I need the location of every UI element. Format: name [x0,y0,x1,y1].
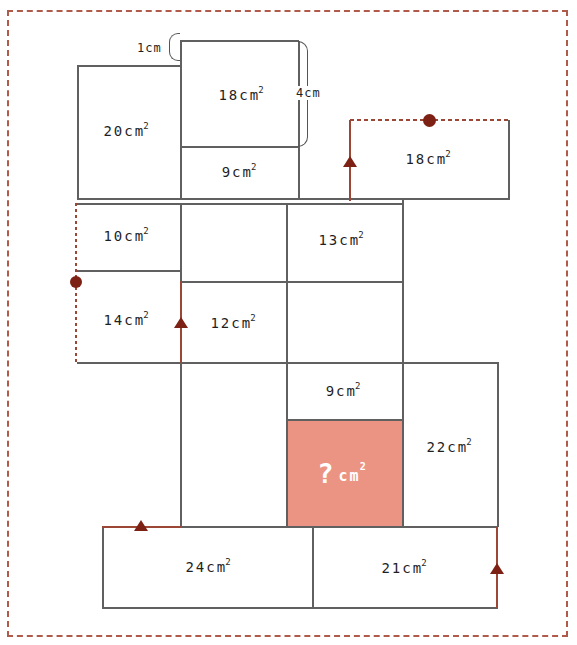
area-value: 13cm [318,232,360,248]
grid-line [102,607,498,609]
area-sup: 2 [445,149,450,159]
area-sup: 2 [250,313,255,323]
area-sup: 2 [225,557,230,567]
area-value: 24cm [185,559,227,575]
grid-line [181,281,402,283]
area-label-22: 22cm2 [426,439,473,456]
path-start-dot [423,114,436,127]
grid-line [180,203,182,281]
grid-line [181,526,498,528]
grid-line [497,362,499,527]
grid-line [180,146,299,148]
area-label-18-top: 18cm2 [218,87,265,104]
area-label-13: 13cm2 [318,232,365,249]
grid-line [508,120,510,200]
puzzle-diagram: 1cm 4cm 20cm2 18cm2 9cm2 18cm2 10cm2 13c… [0,0,577,645]
grid-line [402,199,404,527]
grid-line [102,527,104,608]
area-sup: 2 [358,230,363,240]
path-start-dot [70,276,82,288]
dimension-label-1cm: 1cm [136,41,163,55]
area-sup: 2 [143,226,148,236]
area-value: 12cm [210,315,252,331]
area-value: 9cm [326,383,357,399]
area-sup: 2 [360,461,366,472]
question-mark: ? [317,458,335,489]
grid-line [180,362,182,527]
area-sup: 2 [143,310,148,320]
one-cm-bracket [169,33,180,61]
grid-line [312,527,314,608]
grid-line [286,419,402,421]
area-sup: 2 [421,558,426,568]
area-sup: 2 [355,381,360,391]
area-value: 9cm [222,164,253,180]
dimension-label-4cm: 4cm [295,86,322,100]
arrow-up-icon [490,563,504,574]
area-value: 22cm [426,439,468,455]
area-label-10: 10cm2 [103,228,150,245]
area-value: 18cm [218,87,260,103]
area-label-20: 20cm2 [103,123,150,140]
area-sup: 2 [251,162,256,172]
area-sup: 2 [466,437,471,447]
area-value: 21cm [381,560,423,576]
grid-line [180,41,182,199]
area-label-14: 14cm2 [103,312,150,329]
area-label-18-right: 18cm2 [405,151,452,168]
grid-line [77,203,402,205]
arrow-up-icon [174,317,188,328]
area-label-12: 12cm2 [210,315,257,332]
unknown-area-label: ?cm2 [317,458,366,489]
arrow-up-icon [343,156,357,167]
grid-line [180,40,299,42]
area-label-24: 24cm2 [185,559,232,576]
area-value: 10cm [103,228,145,244]
grid-line [77,65,181,67]
area-label-9-top: 9cm2 [222,164,259,181]
area-unit: cm [339,467,361,485]
area-label-9-mid: 9cm2 [326,383,363,400]
area-value: 14cm [103,312,145,328]
grid-line [77,270,181,272]
grid-line [77,65,79,199]
area-value: 20cm [103,123,145,139]
arrow-up-icon [134,520,148,531]
grid-line [77,198,509,200]
area-label-21: 21cm2 [381,560,428,577]
area-sup: 2 [258,85,263,95]
grid-line [286,203,288,527]
area-sup: 2 [143,121,148,131]
area-value: 18cm [405,151,447,167]
